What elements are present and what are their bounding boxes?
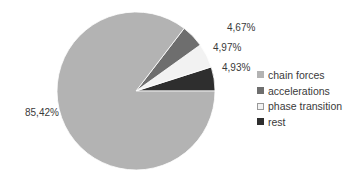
swatch-chain-forces xyxy=(257,71,264,78)
legend-label: chain forces xyxy=(268,69,325,81)
swatch-phase-transition xyxy=(257,103,264,110)
legend-item-rest: rest xyxy=(257,114,342,130)
legend-item-accelerations: accelerations xyxy=(257,83,342,99)
legend-label: rest xyxy=(268,116,286,128)
swatch-rest xyxy=(257,118,264,125)
legend-item-chain-forces: chain forces xyxy=(257,67,342,83)
legend-label: phase transition xyxy=(268,100,342,112)
legend-item-phase-transition: phase transition xyxy=(257,98,342,114)
label-phase-transition: 4,97% xyxy=(213,42,241,53)
label-accelerations: 4,67% xyxy=(227,22,255,33)
swatch-accelerations xyxy=(257,87,264,94)
legend: chain forces accelerations phase transit… xyxy=(257,67,342,130)
label-chain-forces: 85,42% xyxy=(25,107,59,118)
legend-label: accelerations xyxy=(268,85,330,97)
label-rest: 4,93% xyxy=(222,62,250,73)
